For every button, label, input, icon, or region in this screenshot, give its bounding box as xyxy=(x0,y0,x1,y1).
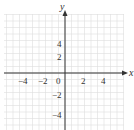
y-axis-label: y xyxy=(59,1,65,12)
x-axis-label: x xyxy=(128,67,134,78)
y-tick-label: −2 xyxy=(52,90,62,100)
x-tick-label: −2 xyxy=(38,76,48,86)
origin-label: 0 xyxy=(56,76,61,86)
grid-lines xyxy=(4,14,124,130)
x-tick-label: −4 xyxy=(18,76,28,86)
y-tick-label: 4 xyxy=(57,39,62,49)
x-tick-label: 2 xyxy=(81,76,86,86)
x-axis-arrow-icon xyxy=(122,71,128,76)
y-tick-label: 2 xyxy=(57,52,62,62)
x-tick-label: 4 xyxy=(101,76,106,86)
x-tick-labels: −4 −2 0 2 4 xyxy=(18,76,106,86)
y-tick-label: −4 xyxy=(52,110,62,120)
coordinate-plane: x y −4 −2 0 2 4 4 2 −2 −4 xyxy=(0,0,134,130)
